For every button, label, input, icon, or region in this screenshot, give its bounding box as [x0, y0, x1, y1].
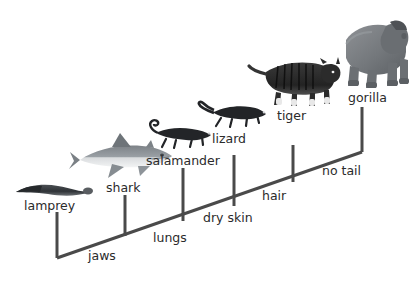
taxon-label-salamander: salamander — [146, 155, 220, 168]
trait-label-hair: hair — [262, 190, 286, 203]
taxon-label-gorilla: gorilla — [348, 92, 387, 105]
cladogram-figure: lamprey shark salamander lizard tiger go… — [0, 0, 420, 281]
taxon-label-lizard: lizard — [212, 133, 246, 146]
taxon-label-lamprey: lamprey — [24, 200, 75, 213]
trait-label-jaws: jaws — [88, 250, 116, 263]
taxon-label-tiger: tiger — [277, 110, 306, 123]
trait-label-dry-skin: dry skin — [203, 212, 253, 225]
trait-label-no-tail: no tail — [322, 165, 361, 178]
taxon-label-shark: shark — [106, 182, 140, 195]
cladogram-lines-layer — [0, 0, 420, 281]
trait-label-lungs: lungs — [153, 232, 187, 245]
